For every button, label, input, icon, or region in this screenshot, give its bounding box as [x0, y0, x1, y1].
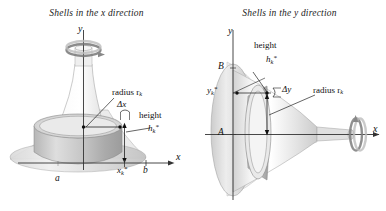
panel-x-drawing: [0, 0, 193, 211]
label-radius-right: radius rk: [313, 86, 343, 96]
panel-x-direction: Shells in the x direction: [0, 0, 193, 211]
label-radius-right-sub: k: [340, 88, 343, 95]
label-radius-right-word: radius r: [313, 85, 340, 95]
label-height-word-right: height: [254, 41, 277, 50]
label-sample-y-star: *: [214, 85, 218, 93]
label-bound-a: a: [55, 174, 60, 184]
label-sample-x: xk*: [117, 166, 127, 176]
label-sample-x-star: *: [124, 165, 128, 173]
label-radius-left: radius rk: [112, 88, 142, 98]
shell-method-figure: Shells in the x direction: [0, 0, 386, 211]
label-y-axis-right: y: [228, 26, 232, 36]
label-delta-y: Δy: [282, 85, 291, 94]
panel-y-drawing: [193, 0, 386, 211]
label-radius-left-word: radius r: [112, 87, 139, 97]
label-bound-A: A: [218, 128, 224, 138]
label-bound-b: b: [143, 166, 148, 176]
label-delta-x: Δx: [117, 100, 126, 109]
label-y-axis-left: y: [78, 24, 82, 34]
label-bound-B: B: [218, 62, 224, 72]
label-height-word-left: height: [139, 111, 162, 120]
label-height-sym-right-star: *: [273, 54, 277, 62]
label-radius-left-sub: k: [139, 90, 142, 97]
label-height-sym-right: hk*: [266, 55, 277, 65]
label-x-axis-left: x: [176, 152, 180, 162]
label-sample-y: yk*: [207, 86, 217, 96]
label-height-sym-left: hk*: [148, 124, 159, 134]
label-height-sym-left-star: *: [155, 123, 159, 131]
label-x-axis-right: x: [373, 124, 377, 134]
panel-y-direction: Shells in the y direction: [193, 0, 386, 211]
